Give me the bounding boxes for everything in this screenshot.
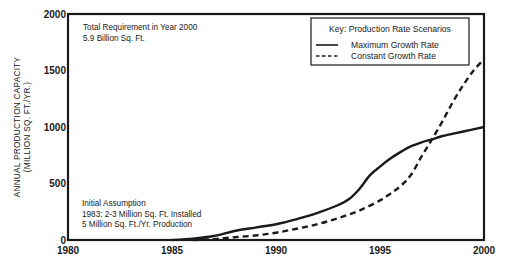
- annotation-line: Total Requirement in Year 2000: [83, 23, 198, 32]
- annotation-line: 1983: 2-3 Million Sq. Ft. Installed: [82, 210, 202, 219]
- maximum-growth-line: [172, 127, 484, 240]
- annotation-line: Initial Assumption: [82, 199, 146, 208]
- y-axis-label: ANNUAL PRODUCTION CAPACITY (MILLION SQ. …: [13, 56, 32, 197]
- y-tick-label: 0: [60, 235, 66, 246]
- y-tick-label: 500: [49, 178, 66, 189]
- y-axis-label-line2: (MILLION SQ. FT./YR.): [23, 82, 32, 172]
- data-series: [172, 59, 484, 240]
- y-tick-label: 2000: [44, 9, 67, 20]
- x-tick-label: 1985: [161, 245, 184, 256]
- production-capacity-chart: 0500100015002000 19801985199019952000 AN…: [0, 0, 507, 265]
- annotation-line: 5.9 Billion Sq. Ft.: [83, 34, 145, 43]
- legend: Key: Production Rate Scenarios Maximum G…: [311, 18, 469, 65]
- x-tick-label: 2000: [473, 245, 496, 256]
- legend-title: Key: Production Rate Scenarios: [329, 24, 451, 34]
- constant-growth-line: [193, 59, 484, 240]
- y-tick-label: 1000: [44, 122, 67, 133]
- annotation-total-requirement: Total Requirement in Year 2000 5.9 Billi…: [83, 23, 198, 43]
- y-axis-label-line1: ANNUAL PRODUCTION CAPACITY: [13, 56, 22, 197]
- x-tick-label: 1980: [57, 245, 80, 256]
- annotation-line: 5 Million Sq. Ft./Yr. Production: [82, 220, 193, 229]
- x-tick-label: 1990: [265, 245, 288, 256]
- legend-entry-maximum: Maximum Growth Rate: [351, 40, 439, 50]
- y-axis-ticks: 0500100015002000: [44, 9, 67, 246]
- x-tick-label: 1995: [369, 245, 392, 256]
- y-tick-label: 1500: [44, 65, 67, 76]
- annotation-initial-assumption: Initial Assumption 1983: 2-3 Million Sq.…: [82, 199, 202, 229]
- x-axis-ticks: 19801985199019952000: [57, 245, 496, 256]
- legend-entry-constant: Constant Growth Rate: [351, 51, 436, 61]
